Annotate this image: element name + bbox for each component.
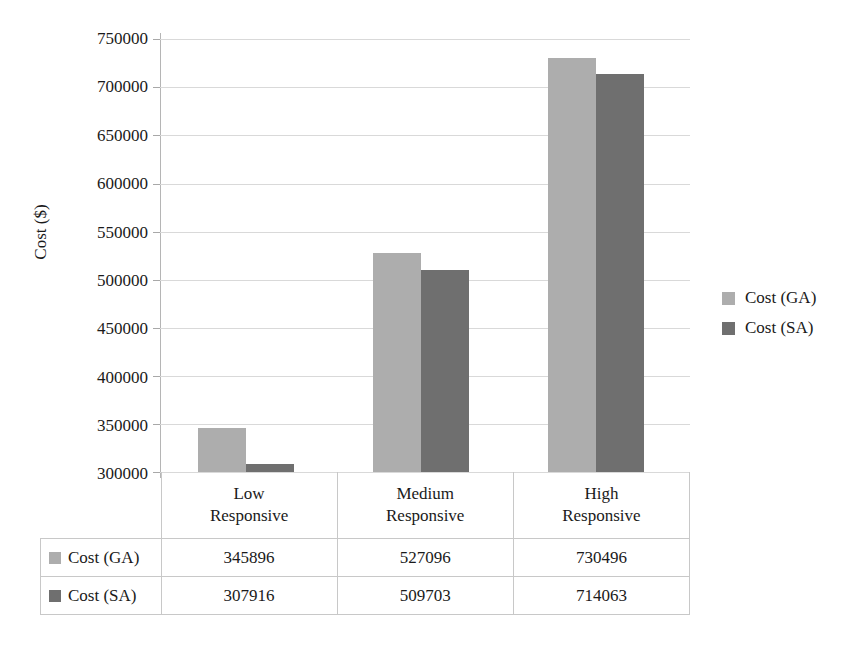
category-label-line2: Responsive [338,505,513,527]
y-tick-label: 550000 [48,224,148,241]
legend-item-cost-ga: Cost (GA) [722,283,862,313]
row-label-text: Cost (GA) [68,548,139,567]
y-tick-mark [153,280,160,281]
bar-chart-figure: Cost ($) 750000 700000 650000 600000 550… [0,0,865,652]
y-tick-mark [153,376,160,377]
category-header-high: High Responsive [513,472,689,539]
y-tick-label: 500000 [48,272,148,289]
category-header-low: Low Responsive [161,472,337,539]
table-row-label-cost-sa: Cost (SA) [41,577,162,615]
legend-swatch-icon [722,322,735,335]
y-tick-label: 750000 [48,30,148,47]
table-cell-sa-high: 714063 [513,577,689,615]
chart-legend: Cost (GA) Cost (SA) [722,283,862,343]
bar-sa-medium [421,270,469,472]
y-tick-mark [153,424,160,425]
bar-sa-low [246,464,294,472]
y-tick-mark [153,135,160,136]
table-row-label-cost-ga: Cost (GA) [41,539,162,577]
y-tick-label: 650000 [48,127,148,144]
table-cell-sa-medium: 509703 [337,577,513,615]
y-tick-mark [153,232,160,233]
row-label-text: Cost (SA) [68,586,136,605]
y-tick-mark [153,39,160,40]
table-cell-ga-high: 730496 [513,539,689,577]
table-corner-cell [41,472,162,539]
legend-swatch-icon [722,292,735,305]
plot-area [160,39,690,472]
category-label-line2: Responsive [162,505,337,527]
bar-ga-high [548,58,596,472]
bar-ga-medium [373,253,421,472]
bar-sa-high [596,74,644,472]
category-header-medium: Medium Responsive [337,472,513,539]
category-label-line1: High [514,483,689,505]
table-cell-ga-medium: 527096 [337,539,513,577]
legend-swatch-icon [49,552,61,564]
y-tick-mark [153,184,160,185]
y-tick-label: 400000 [48,369,148,386]
y-tick-label: 350000 [48,417,148,434]
legend-item-cost-sa: Cost (SA) [722,313,862,343]
table-row: Cost (GA) 345896 527096 730496 [41,539,690,577]
legend-swatch-icon [49,590,61,602]
legend-label: Cost (SA) [745,318,813,338]
category-label-line1: Low [162,483,337,505]
y-tick-label: 700000 [48,78,148,95]
legend-label: Cost (GA) [745,288,816,308]
table-cell-sa-low: 307916 [161,577,337,615]
category-label-line1: Medium [338,483,513,505]
table-row: Cost (SA) 307916 509703 714063 [41,577,690,615]
y-tick-label: 600000 [48,175,148,192]
gridline [160,39,690,40]
bar-ga-low [198,428,246,472]
table-row-category-headers: Low Responsive Medium Responsive High Re… [41,472,690,539]
chart-data-table: Low Responsive Medium Responsive High Re… [40,472,690,615]
y-tick-mark [153,87,160,88]
table-cell-ga-low: 345896 [161,539,337,577]
y-tick-label: 450000 [48,320,148,337]
y-tick-mark [153,328,160,329]
category-label-line2: Responsive [514,505,689,527]
